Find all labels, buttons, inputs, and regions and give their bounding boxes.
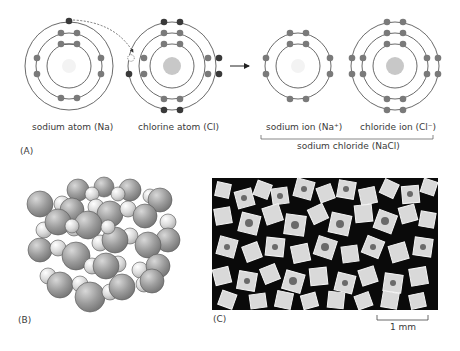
sodium-atom-caption: sodium atom (Na)	[32, 122, 113, 132]
compound-bracket	[261, 135, 433, 139]
panel-a-label: (A)	[20, 146, 33, 156]
ionic-bond-diagram	[0, 0, 460, 351]
scale-bar	[377, 315, 428, 320]
panel-c-label: (C)	[213, 314, 226, 324]
panel-b-label: (B)	[18, 315, 31, 325]
chloride-ion-caption: chloride ion (Cl⁻)	[360, 122, 436, 132]
crystal-lattice	[27, 177, 180, 312]
chlorine-atom-caption: chlorine atom (Cl)	[138, 122, 219, 132]
sodium-ion-caption: sodium ion (Na⁺)	[266, 122, 342, 132]
salt-crystal-micrograph	[212, 178, 438, 310]
scale-bar-label: 1 mm	[390, 322, 416, 332]
chloride-ion	[349, 19, 442, 114]
sodium-ion	[263, 30, 334, 103]
chlorine-atom	[126, 19, 223, 114]
sodium-atom	[25, 18, 113, 110]
compound-caption: sodium chloride (NaCl)	[297, 141, 400, 151]
